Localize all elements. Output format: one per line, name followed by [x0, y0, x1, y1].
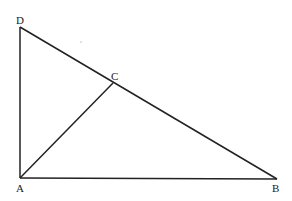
segment-AC [20, 83, 113, 178]
geometry-diagram: D C A B [0, 0, 292, 201]
triangle-figure: D C A B [0, 0, 292, 201]
segment-BD [20, 27, 277, 179]
segment-AB [20, 178, 277, 179]
label-B: B [272, 182, 279, 194]
stray-dot [80, 41, 82, 43]
label-A: A [16, 182, 24, 194]
label-C: C [111, 70, 118, 82]
label-D: D [16, 14, 24, 26]
